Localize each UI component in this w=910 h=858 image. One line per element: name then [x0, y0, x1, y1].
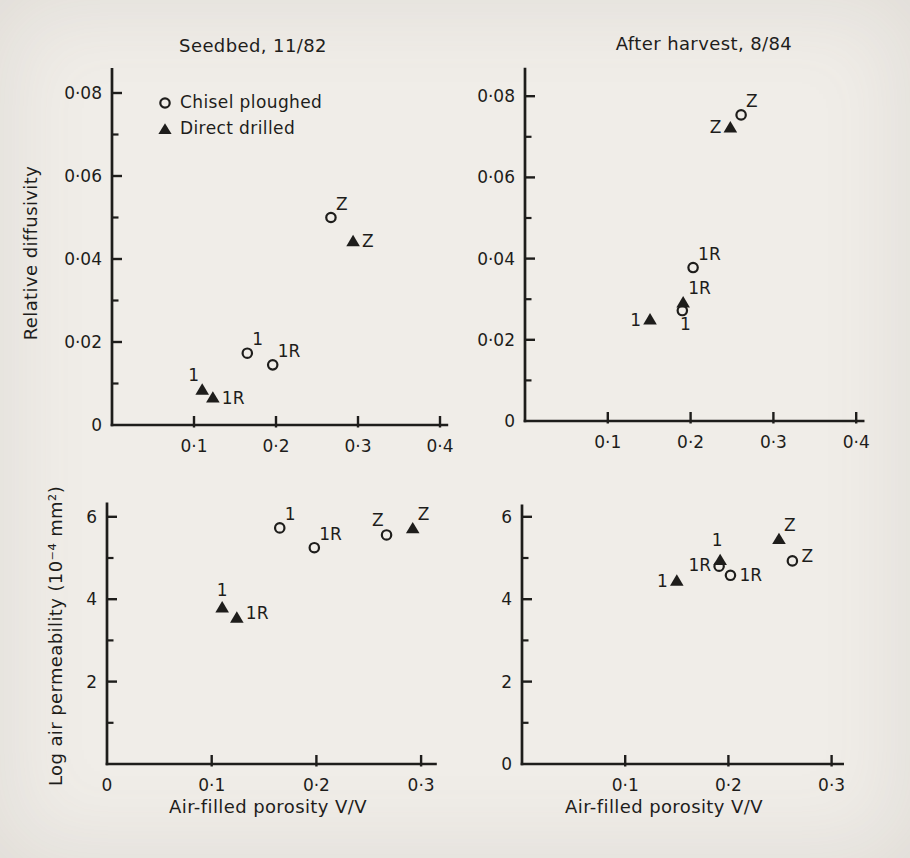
point-label: 1 [712, 530, 723, 550]
plot-after-harvest-log-air-permeability: 0·10·20·3024611RZ11RZ [501, 504, 845, 795]
y-tick-label: 0·04 [477, 249, 515, 269]
point-label: Z [801, 546, 813, 566]
y-axis-label-log-air-permeability: Log air permeability (10⁻⁴ mm²) [45, 486, 66, 786]
point-chisel-ploughed [726, 571, 735, 580]
point-label: 1R [319, 524, 342, 544]
x-tick-label: 0·1 [594, 432, 621, 452]
circle-open-icon [156, 93, 174, 111]
x-axis-label-porosity-right: Air-filled porosity V/V [565, 796, 763, 817]
point-label: 1 [680, 314, 691, 334]
y-tick-label: 0·04 [64, 249, 102, 269]
point-chisel-ploughed [268, 360, 277, 369]
x-tick-label: 0·1 [612, 775, 639, 795]
y-tick-label: 0 [91, 415, 102, 435]
x-tick-label: 0·3 [344, 436, 371, 456]
y-tick-label: 2 [86, 672, 97, 692]
y-tick-label: 0·02 [477, 330, 515, 350]
plot-title-seedbed: Seedbed, 11/82 [179, 35, 327, 56]
x-tick-label: 0 [102, 775, 113, 795]
x-tick-label: 0·3 [818, 775, 845, 795]
point-label: 1 [217, 580, 228, 600]
y-tick-label: 6 [501, 507, 512, 527]
y-tick-label: 6 [86, 507, 97, 527]
y-tick-label: 2 [501, 672, 512, 692]
point-label: 1R [278, 341, 301, 361]
y-tick-label: 0·06 [477, 167, 515, 187]
point-label: 1R [698, 244, 721, 264]
point-chisel-ploughed [688, 263, 697, 272]
plot-seedbed-log-air-permeability: 00·10·20·324611RZ11RZ [86, 502, 437, 795]
point-label: 1 [630, 310, 641, 330]
y-tick-label: 4 [86, 589, 97, 609]
point-chisel-ploughed [326, 213, 335, 222]
point-label: Z [746, 91, 758, 111]
triangle-filled-icon [156, 119, 174, 137]
x-tick-label: 0·2 [677, 432, 704, 452]
y-tick-label: 0·08 [477, 86, 515, 106]
point-label: 1 [657, 571, 668, 591]
point-direct-drilled [346, 235, 360, 246]
scatter-figure: 0·10·20·30·400·020·040·060·0811RZ11RZ0·1… [0, 0, 910, 858]
point-chisel-ploughed [243, 349, 252, 358]
point-chisel-ploughed [788, 556, 797, 565]
point-label: 1 [188, 365, 199, 385]
legend-label-chisel-ploughed: Chisel ploughed [180, 92, 322, 112]
point-direct-drilled [215, 601, 229, 612]
point-direct-drilled [230, 611, 244, 622]
plots-canvas: 0·10·20·30·400·020·040·060·0811RZ11RZ0·1… [0, 0, 910, 858]
point-direct-drilled [206, 391, 220, 402]
x-tick-label: 0·4 [426, 436, 453, 456]
point-direct-drilled [195, 383, 209, 394]
y-tick-label: 4 [501, 589, 512, 609]
point-chisel-ploughed [736, 110, 745, 119]
point-chisel-ploughed [275, 523, 284, 532]
point-chisel-ploughed [382, 530, 391, 539]
x-tick-label: 0·2 [262, 436, 289, 456]
y-tick-label: 0 [501, 754, 512, 774]
point-label: 1 [285, 504, 296, 524]
x-tick-label: 0·4 [843, 432, 870, 452]
x-tick-label: 0·3 [408, 775, 435, 795]
y-axis-label-relative-diffusivity: Relative diffusivity [20, 166, 41, 341]
plot-after-harvest-relative-diffusivity: 0·10·20·30·400·020·040·060·0811RZ11RZ [477, 68, 870, 452]
point-label: Z [372, 510, 384, 530]
point-label: 1R [222, 388, 245, 408]
legend-label-direct-drilled: Direct drilled [180, 118, 295, 138]
legend-item-chisel-ploughed: Chisel ploughed [156, 89, 322, 115]
y-tick-label: 0·06 [64, 166, 102, 186]
point-label: 1R [688, 278, 711, 298]
point-chisel-ploughed [310, 543, 319, 552]
y-tick-label: 0·08 [64, 83, 102, 103]
x-tick-label: 0·2 [303, 775, 330, 795]
x-tick-label: 0·2 [715, 775, 742, 795]
legend-item-direct-drilled: Direct drilled [156, 115, 322, 141]
x-axis-label-porosity-left: Air-filled porosity V/V [169, 796, 367, 817]
y-tick-label: 0·02 [64, 332, 102, 352]
point-direct-drilled [670, 574, 684, 585]
point-label: 1R [739, 565, 762, 585]
point-label: 1R [689, 555, 712, 575]
point-label: Z [710, 117, 722, 137]
legend: Chisel ploughed Direct drilled [156, 89, 322, 141]
point-label: Z [336, 194, 348, 214]
point-label: Z [362, 231, 374, 251]
x-tick-label: 0·3 [760, 432, 787, 452]
point-direct-drilled [724, 121, 738, 132]
point-label: Z [418, 504, 430, 524]
x-tick-label: 0·1 [198, 775, 225, 795]
x-tick-label: 0·1 [180, 436, 207, 456]
point-direct-drilled [713, 554, 727, 565]
point-label: 1R [246, 603, 269, 623]
point-label: Z [784, 515, 796, 535]
point-direct-drilled [643, 313, 657, 324]
y-tick-label: 0 [504, 411, 515, 431]
point-label: 1 [252, 329, 263, 349]
plot-title-after-harvest: After harvest, 8/84 [616, 33, 792, 54]
